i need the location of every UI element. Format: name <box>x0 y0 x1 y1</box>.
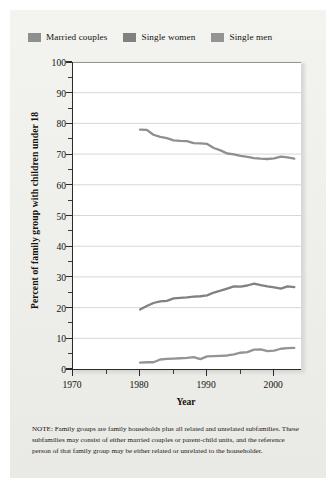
y-minor-tick <box>68 138 72 139</box>
y-minor-tick <box>68 169 72 170</box>
y-tick-label-90: 90 <box>40 87 66 98</box>
x-axis-title: Year <box>72 396 300 407</box>
y-tick-60 <box>66 184 72 185</box>
y-tick-label-60: 60 <box>40 179 66 190</box>
y-tick-label-10: 10 <box>40 333 66 344</box>
y-tick-label-80: 80 <box>40 118 66 129</box>
y-minor-tick <box>68 108 72 109</box>
x-tick-1980 <box>139 370 140 376</box>
y-minor-tick <box>68 322 72 323</box>
y-tick-label-100: 100 <box>40 57 66 68</box>
x-minor-tick <box>240 370 241 374</box>
x-tick-label-2000: 2000 <box>253 379 293 390</box>
x-tick-1970 <box>72 370 73 376</box>
y-tick-30 <box>66 276 72 277</box>
y-tick-label-0: 0 <box>40 364 66 375</box>
y-tick-label-40: 40 <box>40 241 66 252</box>
y-tick-100 <box>66 61 72 62</box>
x-tick-label-1990: 1990 <box>186 379 226 390</box>
y-axis-title: Percent of family group with children un… <box>29 91 40 331</box>
y-minor-tick <box>68 353 72 354</box>
y-minor-tick <box>68 261 72 262</box>
y-tick-50 <box>66 215 72 216</box>
x-tick-label-1980: 1980 <box>119 379 159 390</box>
x-minor-tick <box>173 370 174 374</box>
y-minor-tick <box>68 200 72 201</box>
y-tick-label-30: 30 <box>40 271 66 282</box>
y-tick-20 <box>66 307 72 308</box>
y-tick-80 <box>66 123 72 124</box>
figure-canvas: Married couples Single women Single men … <box>0 0 336 498</box>
y-tick-label-70: 70 <box>40 149 66 160</box>
y-minor-tick <box>68 292 72 293</box>
y-tick-label-20: 20 <box>40 302 66 313</box>
x-tick-1990 <box>206 370 207 376</box>
y-minor-tick <box>68 77 72 78</box>
y-tick-90 <box>66 92 72 93</box>
x-tick-label-1970: 1970 <box>52 379 92 390</box>
x-minor-tick <box>106 370 107 374</box>
y-minor-tick <box>68 230 72 231</box>
x-tick-2000 <box>273 370 274 376</box>
y-tick-70 <box>66 154 72 155</box>
y-tick-10 <box>66 338 72 339</box>
y-tick-40 <box>66 246 72 247</box>
chart-note: NOTE: Family groups are family household… <box>32 424 304 456</box>
y-tick-label-50: 50 <box>40 210 66 221</box>
